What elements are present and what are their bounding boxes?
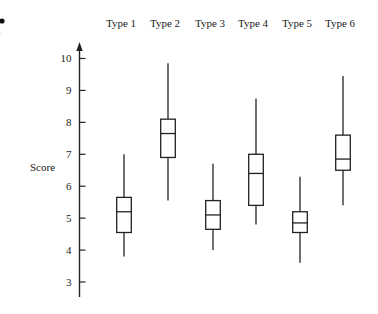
category-label: Type 5: [282, 17, 313, 29]
iqr-box: [293, 212, 308, 233]
y-axis-label: Score: [30, 161, 55, 173]
box-1: [117, 154, 132, 256]
category-label: Type 1: [106, 17, 136, 29]
category-labels: Type 1Type 2Type 3Type 4Type 5Type 6: [106, 17, 356, 29]
y-axis: 345678910: [61, 42, 86, 297]
box-4: [249, 98, 264, 224]
iqr-box: [336, 135, 351, 170]
y-tick-label: 7: [66, 148, 72, 160]
partial-text-fragment: t: [0, 26, 1, 36]
y-axis-arrow-icon: [76, 42, 82, 51]
y-tick-label: 6: [66, 180, 72, 192]
y-axis-label-group: Score: [30, 161, 55, 173]
iqr-box: [161, 119, 176, 157]
box-2: [161, 63, 176, 200]
box-6: [336, 76, 351, 205]
y-tick-label: 8: [66, 116, 72, 128]
y-tick-label: 4: [66, 244, 72, 256]
y-tick-label: 3: [66, 276, 72, 288]
y-tick-label: 10: [61, 52, 73, 64]
box-5: [293, 177, 308, 263]
category-label: Type 6: [325, 17, 356, 29]
y-tick-label: 5: [66, 212, 72, 224]
y-tick-label: 9: [66, 84, 72, 96]
iqr-box: [249, 154, 264, 205]
bullet-dot-fragment: [0, 18, 5, 23]
iqr-box: [117, 197, 132, 232]
category-label: Type 3: [195, 17, 226, 29]
box-plot-chart: t 345678910 Score Type 1Type 2Type 3Type…: [0, 0, 378, 314]
category-label: Type 2: [150, 17, 180, 29]
category-label: Type 4: [238, 17, 269, 29]
boxes: [117, 63, 351, 263]
box-3: [206, 164, 221, 250]
